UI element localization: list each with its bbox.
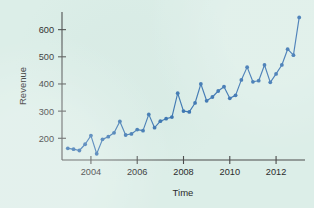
data-point xyxy=(292,53,296,57)
data-point xyxy=(182,109,186,113)
data-point xyxy=(95,152,99,156)
x-tick-label: 2008 xyxy=(173,167,193,177)
y-tick-label: 500 xyxy=(39,52,54,62)
data-point xyxy=(72,147,76,151)
data-point xyxy=(187,110,191,114)
chart-svg: 200300400500600 20042006200820102012 Tim… xyxy=(0,0,314,208)
data-point xyxy=(239,78,243,82)
data-point xyxy=(251,80,255,84)
data-point xyxy=(274,72,278,76)
y-tick-label: 200 xyxy=(39,134,54,144)
data-point xyxy=(135,128,139,132)
data-point xyxy=(205,99,209,103)
data-point xyxy=(147,112,151,116)
data-point xyxy=(170,115,174,119)
data-point xyxy=(245,65,249,69)
data-point xyxy=(164,117,168,121)
y-tick-label: 400 xyxy=(39,79,54,89)
x-tick-label: 2010 xyxy=(220,167,240,177)
data-point xyxy=(268,80,272,84)
revenue-data-points xyxy=(66,16,301,156)
data-point xyxy=(286,47,290,51)
y-tick-label: 600 xyxy=(39,25,54,35)
revenue-time-series-chart: 200300400500600 20042006200820102012 Tim… xyxy=(0,0,314,208)
x-tick-label: 2004 xyxy=(81,167,101,177)
x-axis-ticks: 20042006200820102012 xyxy=(81,156,287,177)
data-point xyxy=(176,91,180,95)
data-point xyxy=(222,85,226,89)
data-point xyxy=(66,146,70,150)
data-point xyxy=(228,96,232,100)
data-point xyxy=(257,79,261,83)
data-point xyxy=(158,119,162,123)
x-tick-label: 2012 xyxy=(266,167,286,177)
data-point xyxy=(153,126,157,130)
data-point xyxy=(263,63,267,67)
x-tick-label: 2006 xyxy=(127,167,147,177)
y-tick-label: 300 xyxy=(39,107,54,117)
data-point xyxy=(83,142,87,146)
data-point xyxy=(106,135,110,139)
data-point xyxy=(199,82,203,86)
data-point xyxy=(101,137,105,141)
revenue-line xyxy=(68,17,299,153)
data-point xyxy=(124,133,128,137)
data-point xyxy=(280,63,284,67)
data-point xyxy=(211,95,215,99)
data-point xyxy=(118,120,122,124)
x-axis-title: Time xyxy=(173,187,194,198)
data-point xyxy=(130,132,134,136)
data-point xyxy=(216,89,220,93)
data-point xyxy=(112,131,116,135)
y-axis-title: Revenue xyxy=(17,67,28,105)
data-point xyxy=(141,129,145,133)
data-point xyxy=(234,93,238,97)
data-point xyxy=(193,101,197,105)
data-point xyxy=(89,134,93,138)
data-point xyxy=(297,16,301,20)
data-point xyxy=(77,149,81,153)
